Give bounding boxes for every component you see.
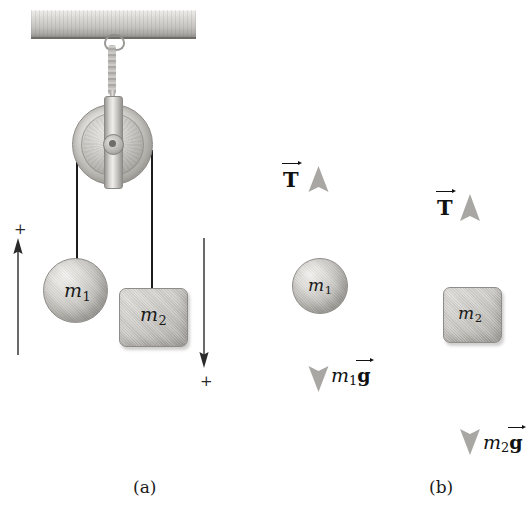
weight-mass-subscript-m1: 1 bbox=[349, 373, 357, 388]
fbd-m1-base: m bbox=[308, 275, 324, 295]
tension-symbol-m1: T bbox=[283, 167, 299, 192]
fbd-m2-subscript: 2 bbox=[475, 311, 482, 325]
weight-mass-symbol-m2: m bbox=[483, 431, 501, 453]
mass-m2-label: m2 bbox=[140, 305, 167, 328]
fbd-m1-weight-label: m1g bbox=[331, 366, 371, 388]
direction-arrow-down bbox=[199, 238, 208, 368]
weight-mass-symbol-m1: m bbox=[331, 364, 349, 386]
fbd-m1-tension-label: T bbox=[283, 169, 299, 191]
fbd-m1-subscript: 1 bbox=[325, 283, 332, 297]
physics-figure: m1 m2 + + bbox=[0, 0, 528, 518]
gravity-symbol-m2: g bbox=[509, 431, 522, 453]
gravity-symbol-m1: g bbox=[357, 364, 370, 386]
positive-sign-left: + bbox=[14, 222, 27, 237]
fbd-m2-body-label: m2 bbox=[458, 305, 482, 325]
pulley-axle-hole bbox=[109, 140, 116, 147]
mass-m2-subscript: 2 bbox=[159, 313, 167, 328]
caption-b: (b) bbox=[429, 477, 453, 497]
string-right bbox=[151, 150, 153, 292]
fbd-m2-tension-label: T bbox=[437, 197, 453, 219]
mass-m1-label: m1 bbox=[64, 281, 91, 304]
direction-arrow-up bbox=[13, 238, 22, 355]
fbd-m1-body-label: m1 bbox=[308, 277, 332, 297]
tension-symbol-m2: T bbox=[437, 195, 453, 220]
beam-texture bbox=[31, 10, 196, 37]
mass-m1-base: m bbox=[64, 279, 82, 301]
mass-m2-base: m bbox=[140, 303, 158, 325]
string-left bbox=[76, 150, 78, 262]
fbd-m2-base: m bbox=[458, 303, 474, 323]
fbd-m2-weight-label: m2g bbox=[483, 433, 523, 455]
positive-sign-right: + bbox=[200, 374, 213, 389]
weight-mass-subscript-m2: 2 bbox=[501, 440, 509, 455]
support-chain bbox=[108, 45, 116, 95]
mass-m1-subscript: 1 bbox=[83, 289, 91, 304]
caption-a: (a) bbox=[133, 477, 156, 497]
